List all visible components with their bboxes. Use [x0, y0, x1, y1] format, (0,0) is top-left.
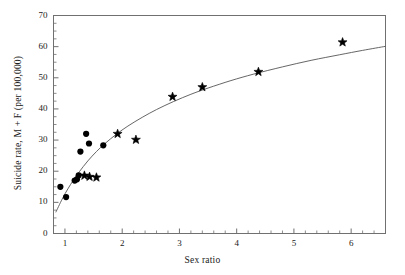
- y-tick-label: 30: [12, 134, 48, 144]
- plot-frame: [54, 16, 386, 234]
- y-tick-label: 70: [12, 10, 48, 20]
- data-point-circle: [77, 148, 83, 154]
- y-tick-label: 10: [12, 196, 48, 206]
- y-tick-label: 60: [12, 41, 48, 51]
- data-point-star: [92, 173, 101, 182]
- data-point-circle: [100, 142, 106, 148]
- y-tick-label: 40: [12, 103, 48, 113]
- x-tick-label: 6: [331, 238, 371, 248]
- data-point-circle: [83, 131, 89, 137]
- data-point-star: [254, 67, 263, 76]
- data-point-star: [113, 129, 122, 138]
- y-tick-label: 20: [12, 165, 48, 175]
- y-axis-label: Suicide rate, M + F (per 100,000): [13, 43, 23, 203]
- x-tick-label: 4: [217, 238, 257, 248]
- x-tick-label: 5: [274, 238, 314, 248]
- x-tick-label: 1: [45, 238, 85, 248]
- x-axis-label: Sex ratio: [0, 255, 405, 265]
- y-tick-label: 50: [12, 72, 48, 82]
- plot-canvas: [0, 0, 405, 275]
- data-point-circle: [86, 140, 92, 146]
- y-tick-label: 0: [12, 228, 48, 238]
- fitted-curve: [56, 46, 386, 212]
- x-tick-label: 3: [159, 238, 199, 248]
- data-point-star: [338, 38, 347, 47]
- data-point-circle: [57, 184, 63, 190]
- data-point-circle: [76, 172, 82, 178]
- scatter-plot-figure: Sex ratio Suicide rate, M + F (per 100,0…: [0, 0, 405, 275]
- data-point-circle: [63, 194, 69, 200]
- data-point-star: [131, 135, 140, 144]
- data-point-star: [168, 92, 177, 101]
- x-tick-label: 2: [102, 238, 142, 248]
